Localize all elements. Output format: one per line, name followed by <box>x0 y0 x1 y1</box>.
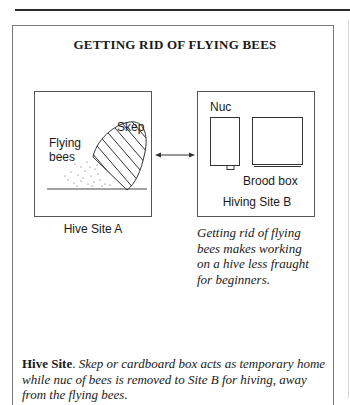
side-caption-line2: bees makes working <box>197 241 337 257</box>
hive-site-a-diagram: Flying bees Skep <box>34 91 152 217</box>
column-divider <box>348 20 349 398</box>
bottom-caption-lead: Hive Site <box>22 356 72 371</box>
side-caption-line4: for beginners. <box>197 272 337 288</box>
hiving-site-b-label: Hiving Site B <box>198 195 316 209</box>
nuc-label: Nuc <box>210 100 231 114</box>
side-caption: Getting rid of flying bees makes working… <box>197 225 337 287</box>
bottom-caption-line1: Skep or cardboard box acts as temporary … <box>75 356 325 371</box>
side-caption-line1: Getting rid of flying <box>197 225 337 241</box>
figure-title: GETTING RID OF FLYING BEES <box>0 37 350 53</box>
flying-bees-label-line2: bees <box>49 150 81 164</box>
brood-box-label: Brood box <box>243 174 298 188</box>
top-rule <box>15 9 350 11</box>
skep-label: Skep <box>117 120 144 134</box>
hiving-site-b-diagram: Nuc Brood box Hiving Site B <box>197 91 315 217</box>
side-caption-line3: on a hive less fraught <box>197 256 337 272</box>
bottom-caption: Hive Site. Skep or cardboard box acts as… <box>22 356 334 403</box>
nuc-box-icon <box>210 117 242 173</box>
flying-bees-label: Flying bees <box>49 136 81 164</box>
bottom-caption-line3: from the flying bees. <box>22 387 128 402</box>
double-arrow-icon <box>155 150 195 160</box>
hive-site-a-caption: Hive Site A <box>34 222 152 236</box>
bottom-caption-line2: while nuc of bees is removed to Site B f… <box>22 372 307 387</box>
brood-box-icon <box>252 117 306 171</box>
flying-bees-label-line1: Flying <box>49 136 81 150</box>
